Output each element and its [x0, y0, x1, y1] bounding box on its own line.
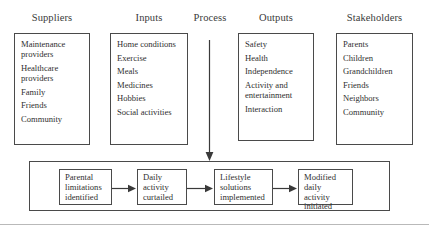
- list-item: Meals: [117, 66, 181, 76]
- column-box-suppliers: Maintenance providers Healthcare provide…: [14, 33, 90, 145]
- list-item: Children: [343, 53, 406, 63]
- list-item: Social activities: [117, 107, 181, 117]
- list-item: Maintenance providers: [21, 39, 83, 59]
- column-header-process: Process: [183, 12, 237, 23]
- process-down-arrow-icon: [204, 40, 215, 162]
- column-header-suppliers: Suppliers: [14, 12, 90, 23]
- list-item: Medicines: [117, 80, 181, 90]
- flow-arrow-icon: [112, 184, 137, 193]
- list-item: Safety: [245, 39, 307, 49]
- list-item: Exercise: [117, 53, 181, 63]
- flow-step-box: Parental limitations identified: [59, 169, 112, 205]
- column-header-outputs: Outputs: [238, 12, 314, 23]
- flow-step-box: Daily activity curtailed: [137, 169, 187, 205]
- column-box-inputs: Home conditions Exercise Meals Medicines…: [110, 33, 188, 145]
- list-item: Healthcare providers: [21, 63, 83, 83]
- process-flow-container: Parental limitations identified Daily ac…: [29, 161, 390, 211]
- list-item: Home conditions: [117, 39, 181, 49]
- list-item: Friends: [21, 100, 83, 110]
- sipos-diagram: Suppliers Inputs Process Outputs Stakeho…: [0, 0, 429, 231]
- list-item: Neighbors: [343, 93, 406, 103]
- flow-step-box: Modified daily activity initiated: [298, 169, 353, 205]
- footer-divider: [0, 224, 429, 225]
- list-item: Parents: [343, 39, 406, 49]
- column-box-stakeholders: Parents Children Grandchildren Friends N…: [336, 33, 413, 145]
- flow-arrow-icon: [187, 184, 214, 193]
- list-item: Family: [21, 87, 83, 97]
- column-header-inputs: Inputs: [110, 12, 188, 23]
- list-item: Grandchildren: [343, 66, 406, 76]
- flow-arrow-icon: [273, 184, 298, 193]
- list-item: Activity and entertainment: [245, 80, 307, 100]
- list-item: Community: [21, 114, 83, 124]
- list-item: Friends: [343, 80, 406, 90]
- flow-step-box: Lifestyle solutions implemented: [214, 169, 273, 205]
- list-item: Hobbies: [117, 93, 181, 103]
- column-box-outputs: Safety Health Independence Activity and …: [238, 33, 314, 141]
- list-item: Health: [245, 53, 307, 63]
- list-item: Community: [343, 107, 406, 117]
- list-item: Interaction: [245, 104, 307, 114]
- list-item: Independence: [245, 66, 307, 76]
- column-header-stakeholders: Stakeholders: [335, 12, 414, 23]
